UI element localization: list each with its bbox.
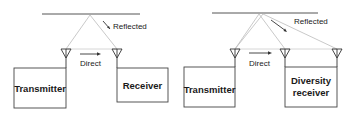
transmitter-antenna-icon	[61, 49, 71, 68]
direct-label: Direct	[80, 59, 102, 68]
reflected-label: Reflected	[294, 17, 328, 26]
direct-label: Direct	[249, 59, 271, 68]
left-panel: Reflected Direct Transmitter Receiver	[14, 14, 168, 108]
transmitter-label: Transmitter	[14, 83, 66, 94]
transmitter-antenna-icon	[230, 49, 240, 67]
transmitter-label: Transmitter	[184, 84, 236, 95]
reflected-path-1	[235, 14, 285, 49]
receiver-antenna-icon	[112, 49, 122, 68]
reflected-label: Reflected	[113, 22, 147, 31]
receiver-antenna-1-icon	[280, 49, 290, 67]
diversity-receiver-label-line2: receiver	[293, 87, 330, 98]
receiver-label: Receiver	[123, 80, 163, 91]
reflected-path	[66, 15, 117, 49]
right-panel: Reflected Direct Transmitter Diversity r…	[184, 13, 342, 107]
receiver-antenna-2-icon	[332, 49, 342, 67]
diversity-receiver-label-line1: Diversity	[291, 75, 332, 86]
diversity-diagram: Reflected Direct Transmitter Receiver	[0, 0, 358, 119]
